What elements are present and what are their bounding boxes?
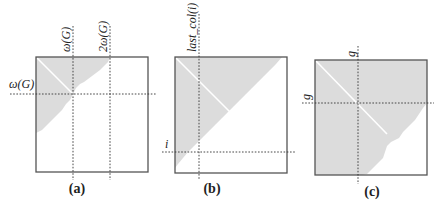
panel-c-caption: (c) [364,184,380,200]
panel-b: last_col(i) i (b) [162,3,295,197]
panel-a-vlabel-2omega: 2ω(G) [96,21,110,52]
panel-a-caption: (a) [69,181,86,197]
panel-a-hlabel-omega: ω(G) [9,77,34,91]
panel-c-vlabel-g: g [344,51,358,57]
panel-b-vlabel-lastcol: last_col(i) [185,3,199,52]
panel-c-hlabel-g: g [299,94,313,100]
panel-a: ω(G) 2ω(G) ω(G) (a) [9,21,156,197]
panel-a-vlabel-omega: ω(G) [59,27,73,52]
panel-b-caption: (b) [203,181,220,197]
panel-b-hlabel-i: i [165,137,168,151]
panel-c: g g (c) [299,46,434,200]
figure-canvas: ω(G) 2ω(G) ω(G) (a) last_col(i) i (b) g … [0,0,442,209]
